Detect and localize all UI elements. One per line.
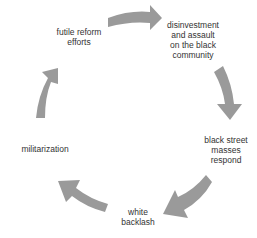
node-white-backlash: white backlash (114, 207, 162, 227)
arrow-down-icon (214, 66, 242, 120)
arrow-right-icon (108, 5, 162, 30)
node-line: disinvestment (162, 20, 224, 30)
node-futile-reform: futile reform efforts (52, 27, 106, 47)
node-line: militarization (18, 144, 72, 154)
node-line: white (114, 207, 162, 217)
node-black-street-masses: black street masses respond (199, 135, 253, 165)
node-line: on the black (162, 40, 224, 50)
arrow-up-icon (36, 68, 58, 118)
node-line: backlash (114, 217, 162, 227)
node-line: masses (199, 145, 253, 155)
node-militarization: militarization (18, 144, 72, 154)
node-line: black street (199, 135, 253, 145)
arrow-down-left-icon (163, 175, 212, 218)
node-line: futile reform (52, 27, 106, 37)
node-line: respond (199, 155, 253, 165)
arrow-up-left-icon (58, 180, 108, 212)
node-line: community (162, 50, 224, 60)
node-disinvestment: disinvestment and assault on the black c… (162, 20, 224, 60)
node-line: efforts (52, 37, 106, 47)
node-line: and assault (162, 30, 224, 40)
